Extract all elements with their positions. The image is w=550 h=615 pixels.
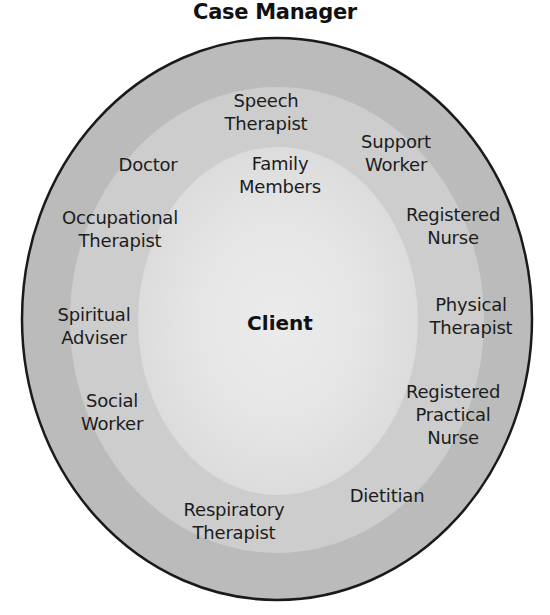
label-speech-therapist: Speech Therapist bbox=[225, 89, 308, 135]
label-family-members: Family Members bbox=[239, 152, 321, 198]
care-team-diagram: Case Manager Client Family Members Speec… bbox=[0, 0, 550, 615]
label-social-worker: Social Worker bbox=[81, 389, 143, 435]
label-doctor: Doctor bbox=[118, 153, 177, 176]
label-dietitian: Dietitian bbox=[350, 484, 425, 507]
label-registered-practical-nurse: Registered Practical Nurse bbox=[406, 380, 500, 449]
label-registered-nurse: Registered Nurse bbox=[406, 203, 500, 249]
label-respiratory-therapist: Respiratory Therapist bbox=[184, 498, 285, 544]
label-support-worker: Support Worker bbox=[361, 130, 431, 176]
label-occupational-therapist: Occupational Therapist bbox=[62, 206, 178, 252]
client-label: Client bbox=[247, 311, 313, 335]
label-physical-therapist: Physical Therapist bbox=[430, 293, 513, 339]
label-spiritual-adviser: Spiritual Adviser bbox=[58, 303, 131, 349]
